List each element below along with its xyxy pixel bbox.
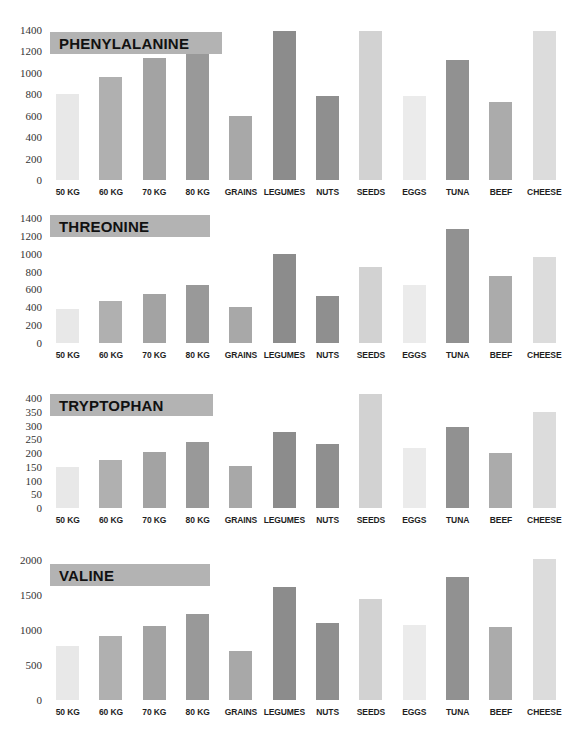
y-tick-label: 600 [26, 110, 43, 121]
y-tick-label: 1000 [20, 625, 42, 636]
bar-seeds [359, 267, 382, 343]
x-axis-label: LEGUMES [263, 707, 306, 717]
bar-50-kg [56, 467, 79, 508]
bar-80-kg [186, 285, 209, 343]
y-tick-label: 2000 [20, 555, 42, 566]
x-axis-label: CHEESE [523, 515, 566, 525]
bar-70-kg [143, 626, 166, 700]
bar-slot [219, 560, 262, 700]
y-tick-label: 1200 [20, 46, 42, 57]
bar-legumes [273, 432, 296, 508]
bar-nuts [316, 296, 339, 343]
bar-tuna [446, 60, 469, 180]
bar-eggs [403, 96, 426, 180]
bar-tuna [446, 229, 469, 343]
x-axis-label: CHEESE [523, 707, 566, 717]
x-axis-label: TUNA [436, 350, 479, 360]
bar-legumes [273, 587, 296, 700]
x-axis-label: 80 KG [176, 187, 219, 197]
y-tick-label: 1500 [20, 590, 42, 601]
x-axis-label: LEGUMES [263, 187, 306, 197]
y-tick-label: 1000 [20, 67, 42, 78]
bar-grains [229, 307, 252, 343]
y-tick-label: 0 [37, 503, 43, 514]
bar-eggs [403, 625, 426, 700]
bar-slot [393, 398, 436, 508]
bar-slot [349, 560, 392, 700]
y-axis-1: 0200400600800100012001400 [0, 218, 46, 343]
bar-70-kg [143, 294, 166, 343]
x-axis-label: BEEF [479, 187, 522, 197]
chart-title-banner-3: VALINE [50, 564, 210, 586]
bar-beef [489, 102, 512, 180]
y-tick-label: 500 [26, 660, 43, 671]
bar-slot [306, 398, 349, 508]
x-axis-label: 50 KG [46, 707, 89, 717]
x-axis-label: 60 KG [89, 515, 132, 525]
x-axis-3: 50 KG60 KG70 KG80 KGGRAINSLEGUMESNUTSSEE… [46, 707, 570, 717]
x-axis-1: 50 KG60 KG70 KG80 KGGRAINSLEGUMESNUTSSEE… [46, 350, 570, 360]
bar-slot [219, 218, 262, 343]
y-tick-label: 150 [26, 461, 43, 472]
y-tick-label: 800 [26, 89, 43, 100]
x-axis-label: NUTS [306, 350, 349, 360]
bar-slot [436, 560, 479, 700]
chart-title-0: PHENYLALANINE [59, 35, 189, 52]
y-tick-label: 400 [26, 393, 43, 404]
bar-70-kg [143, 58, 166, 180]
y-tick-label: 200 [26, 448, 43, 459]
x-axis-label: 60 KG [89, 707, 132, 717]
chart-title-1: THREONINE [59, 218, 149, 235]
x-axis-label: LEGUMES [263, 515, 306, 525]
x-axis-label: 80 KG [176, 350, 219, 360]
x-axis-label: GRAINS [219, 707, 262, 717]
bar-tuna [446, 427, 469, 508]
bar-slot [479, 398, 522, 508]
bar-slot [219, 30, 262, 180]
x-axis-label: EGGS [393, 187, 436, 197]
bar-grains [229, 466, 252, 508]
bar-60-kg [99, 301, 122, 343]
x-axis-label: 50 KG [46, 187, 89, 197]
x-axis-0: 50 KG60 KG70 KG80 KGGRAINSLEGUMESNUTSSEE… [46, 187, 570, 197]
bar-slot [306, 560, 349, 700]
y-axis-0: 0200400600800100012001400 [0, 30, 46, 180]
chart-title-banner-1: THREONINE [50, 215, 210, 237]
chart-title-banner-0: PHENYLALANINE [50, 32, 222, 54]
bar-nuts [316, 623, 339, 700]
x-axis-label: NUTS [306, 707, 349, 717]
bar-beef [489, 453, 512, 508]
x-axis-label: GRAINS [219, 187, 262, 197]
bar-cheese [533, 559, 556, 700]
y-tick-label: 350 [26, 406, 43, 417]
y-tick-label: 200 [26, 153, 43, 164]
chart-title-2: TRYPTOPHAN [59, 397, 164, 414]
x-axis-label: SEEDS [349, 707, 392, 717]
bar-slot [263, 398, 306, 508]
x-axis-label: 50 KG [46, 350, 89, 360]
chart-title-banner-2: TRYPTOPHAN [50, 394, 213, 416]
y-tick-label: 50 [31, 489, 42, 500]
x-axis-label: BEEF [479, 350, 522, 360]
chart-threonine: THREONINE 0200400600800100012001400 50 K… [0, 212, 570, 392]
amino-acid-charts-page: PHENYLALANINE 0200400600800100012001400 … [0, 0, 570, 750]
x-axis-label: CHEESE [523, 350, 566, 360]
x-axis-label: BEEF [479, 515, 522, 525]
x-axis-label: 60 KG [89, 350, 132, 360]
y-tick-label: 250 [26, 434, 43, 445]
bar-grains [229, 116, 252, 180]
bar-60-kg [99, 636, 122, 700]
bar-70-kg [143, 452, 166, 508]
bar-60-kg [99, 460, 122, 508]
bar-slot [349, 218, 392, 343]
bar-beef [489, 276, 512, 343]
bar-seeds [359, 394, 382, 508]
y-tick-label: 600 [26, 284, 43, 295]
y-tick-label: 1400 [20, 213, 42, 224]
bar-nuts [316, 96, 339, 180]
bar-slot [479, 560, 522, 700]
x-axis-label: 70 KG [133, 707, 176, 717]
bar-eggs [403, 448, 426, 509]
bar-slot [393, 560, 436, 700]
chart-title-3: VALINE [59, 567, 114, 584]
